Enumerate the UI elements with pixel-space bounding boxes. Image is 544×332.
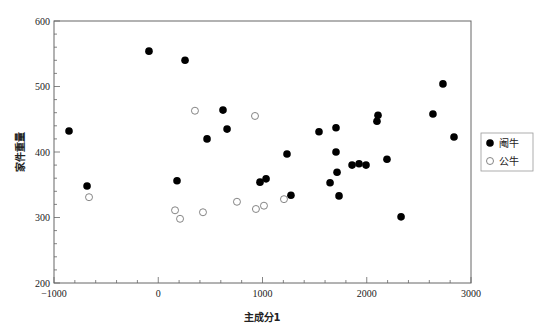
data-point-bull — [252, 205, 259, 212]
legend-filled-circle-icon — [486, 139, 494, 147]
data-point-steer — [383, 155, 391, 163]
y-tick-label: 500 — [35, 81, 50, 92]
y-tick-label: 200 — [35, 278, 50, 289]
data-point-steer — [283, 150, 291, 158]
y-tick-label: 300 — [35, 212, 50, 223]
data-point-steer — [181, 57, 189, 65]
data-point-steer — [439, 80, 447, 88]
data-point-steer — [397, 213, 405, 221]
data-point-steer — [332, 148, 340, 156]
x-tick-label: −1000 — [41, 288, 67, 299]
data-point-steer — [145, 47, 153, 55]
data-point-steer — [219, 106, 227, 114]
legend-open-circle-icon — [487, 158, 494, 165]
x-axis-title: 主成分1 — [244, 311, 281, 323]
data-point-bull — [199, 209, 206, 216]
x-tick-label: 3000 — [461, 288, 481, 299]
data-point-steer — [335, 192, 343, 200]
data-point-steer — [315, 128, 323, 136]
data-point-bull — [260, 202, 267, 209]
x-tick-label: 2000 — [357, 288, 377, 299]
legend: 阉牛 公牛 — [481, 133, 533, 171]
data-point-steer — [287, 191, 295, 199]
data-point-bull — [191, 107, 198, 114]
data-point-bull — [233, 198, 240, 205]
y-axis-title: 家件重量 — [14, 132, 26, 172]
plot-frame — [54, 21, 471, 283]
y-tick-label: 600 — [35, 16, 50, 27]
data-point-steer — [223, 125, 231, 133]
scatter-chart: −10000100020003000200300400500600 主成分1 家… — [0, 0, 544, 332]
data-point-bull — [172, 207, 179, 214]
data-point-steer — [355, 160, 363, 168]
x-tick-label: 1000 — [253, 288, 273, 299]
data-point-bull — [280, 196, 287, 203]
data-point-steer — [203, 135, 211, 143]
data-point-steer — [373, 117, 381, 125]
data-point-steer — [362, 161, 370, 169]
x-tick-label: 0 — [156, 288, 161, 299]
data-point-steer — [326, 179, 334, 187]
data-point-steer — [450, 133, 458, 141]
data-point-steer — [333, 169, 341, 177]
data-point-bull — [86, 194, 93, 201]
data-point-steer — [173, 177, 181, 185]
data-point-steer — [65, 127, 73, 135]
data-point-steer — [83, 182, 91, 190]
legend-label-bull: 公牛 — [499, 155, 519, 167]
data-point-steer — [348, 161, 356, 169]
data-point-bull — [251, 112, 258, 119]
data-point-steer — [262, 175, 270, 183]
data-point-steer — [332, 124, 340, 132]
data-point-steer — [429, 110, 437, 118]
legend-label-steer: 阉牛 — [499, 137, 519, 149]
y-tick-label: 400 — [35, 147, 50, 158]
data-point-bull — [177, 215, 184, 222]
